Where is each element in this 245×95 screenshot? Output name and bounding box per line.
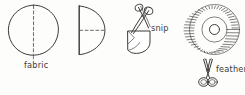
step-fabric-circle	[8, 5, 58, 55]
step-fringed-pompom	[184, 5, 240, 55]
label-feather: feather	[216, 64, 245, 74]
scissors-upright-tip-left	[204, 59, 206, 60]
label-snip: snip	[151, 23, 169, 33]
diagram-canvas: fabric	[0, 0, 245, 95]
scissors-upright-handle-left-inner	[201, 80, 207, 85]
craft-diagram: fabric	[0, 0, 245, 95]
scissors-upright-pivot	[207, 70, 209, 72]
scissors-upright-icon	[199, 59, 218, 87]
scissors-upright-handle-right-inner	[209, 80, 215, 85]
pompom-center-hole	[210, 25, 220, 35]
snip-wedge	[128, 31, 150, 53]
label-fabric: fabric	[24, 60, 48, 70]
scissors-blade-left	[132, 9, 147, 33]
step-folded-half-circle	[79, 6, 105, 55]
scissors-upright-tip-right	[210, 59, 212, 60]
step-feather-scissors	[199, 59, 218, 87]
